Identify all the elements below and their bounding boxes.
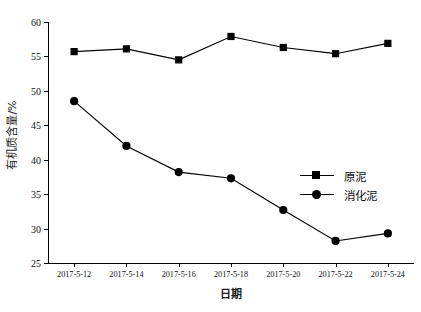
y-tick-25 (44, 263, 48, 264)
y-tick-label-60: 60 (31, 17, 41, 28)
data-point-原泥-0 (71, 48, 78, 55)
data-point-原泥-3 (227, 33, 234, 40)
y-tick-label-30: 30 (31, 223, 41, 234)
x-tick-2 (179, 263, 180, 267)
x-tick-label-3: 2017-5-18 (214, 270, 248, 279)
y-tick-label-40: 40 (31, 154, 41, 165)
x-tick-1 (126, 263, 127, 267)
x-tick-label-6: 2017-5-24 (371, 270, 405, 279)
legend-item-0: 原泥 (300, 166, 410, 185)
x-tick-label-4: 2017-5-20 (266, 270, 300, 279)
x-tick-6 (388, 263, 389, 267)
y-tick-label-55: 55 (31, 51, 41, 62)
data-point-原泥-4 (280, 44, 287, 51)
y-tick-label-25: 25 (31, 258, 41, 269)
x-tick-label-1: 2017-5-14 (109, 270, 143, 279)
legend-label-1: 消化泥 (344, 187, 377, 203)
legend-item-1: 消化泥 (300, 185, 410, 204)
series-plot (48, 22, 414, 263)
data-point-消化泥-2 (175, 168, 183, 176)
legend-marker-circle-icon (300, 188, 334, 202)
x-tick-5 (336, 263, 337, 267)
legend-marker-square-icon (300, 169, 334, 183)
data-point-原泥-6 (384, 40, 391, 47)
y-tick-label-45: 45 (31, 120, 41, 131)
y-axis-title-label: 有机质含量/% (3, 100, 19, 169)
data-point-原泥-1 (123, 45, 130, 52)
x-tick-0 (74, 263, 75, 267)
plot-area: 2530354045505560 2017-5-122017-5-142017-… (48, 22, 414, 263)
data-point-消化泥-3 (227, 174, 235, 182)
data-point-消化泥-4 (279, 206, 287, 214)
data-point-消化泥-5 (331, 237, 339, 245)
chart-legend: 原泥 消化泥 (300, 166, 410, 204)
legend-label-0: 原泥 (344, 168, 366, 184)
data-point-原泥-5 (332, 50, 339, 57)
data-point-消化泥-1 (122, 142, 130, 150)
x-tick-label-2: 2017-5-16 (162, 270, 196, 279)
y-tick-label-35: 35 (31, 189, 41, 200)
data-point-消化泥-0 (70, 97, 78, 105)
data-point-消化泥-6 (384, 229, 392, 237)
x-tick-label-0: 2017-5-12 (57, 270, 91, 279)
y-tick-label-50: 50 (31, 85, 41, 96)
x-tick-label-5: 2017-5-22 (319, 270, 353, 279)
x-axis-title: 日期 (48, 285, 414, 301)
x-tick-4 (283, 263, 284, 267)
data-point-原泥-2 (175, 56, 182, 63)
x-tick-3 (231, 263, 232, 267)
organic-matter-line-chart: 有机质含量/% 2530354045505560 2017-5-122017-5… (0, 0, 421, 312)
y-axis-title: 有机质含量/% (0, 0, 22, 270)
